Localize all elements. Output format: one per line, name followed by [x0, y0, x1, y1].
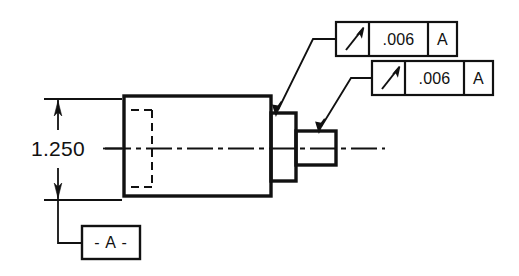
drawing-svg: 1.250 - A - [0, 0, 519, 276]
datum-feature-symbol[interactable]: - A - [82, 226, 140, 259]
technical-drawing-canvas: 1.250 - A - [0, 0, 519, 276]
fcf-lower-datum-ref: A [473, 70, 484, 87]
dimension-value-1250: 1.250 [31, 137, 85, 160]
fcf-upper-tolerance: .006 [383, 31, 415, 48]
datum-label: - A - [94, 234, 127, 251]
fcf-lower-tolerance: .006 [419, 70, 451, 87]
feature-control-frame-upper[interactable]: .006 A [336, 22, 457, 56]
fcf-upper-datum-ref: A [437, 31, 448, 48]
feature-control-frame-lower[interactable]: .006 A [372, 61, 493, 95]
